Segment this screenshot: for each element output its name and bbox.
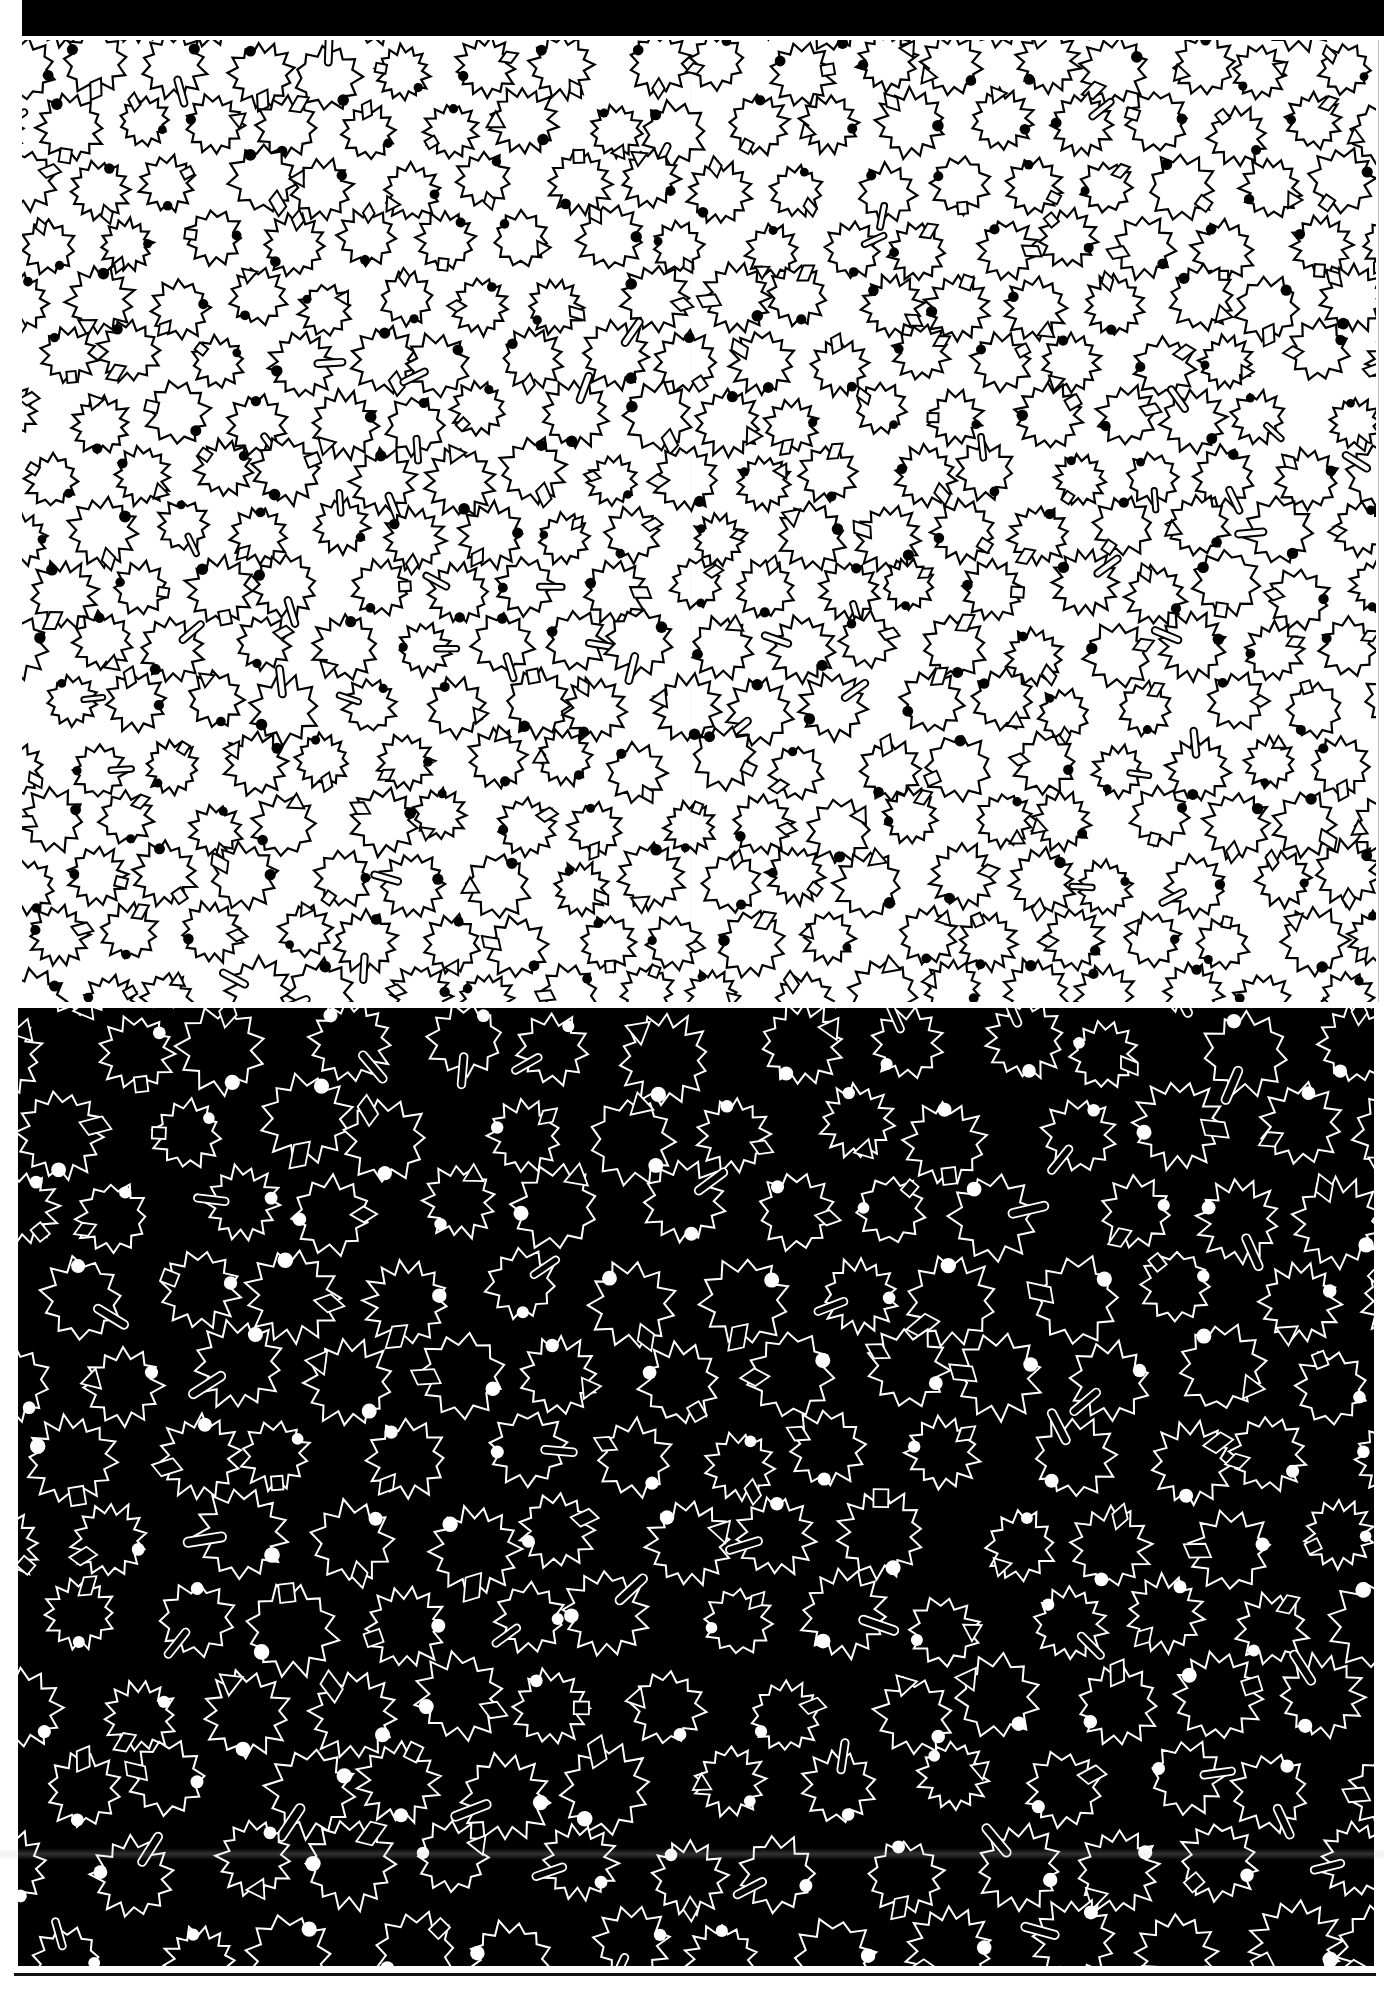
dot-icon xyxy=(1261,778,1270,787)
star-leaf-motif xyxy=(1255,1082,1341,1163)
star-leaf-motif xyxy=(22,968,67,1002)
dot-icon xyxy=(302,1922,317,1937)
star-leaf-motif xyxy=(144,381,211,444)
dot-icon xyxy=(1323,1284,1337,1298)
dot-icon xyxy=(529,960,540,971)
dot-icon xyxy=(423,757,433,767)
star-leaf-motif xyxy=(1316,839,1376,910)
dot-icon xyxy=(698,972,707,981)
dot-icon xyxy=(843,943,852,952)
star-leaf-motif xyxy=(1197,916,1249,969)
dot-icon xyxy=(574,770,584,780)
dot-icon xyxy=(491,1446,504,1459)
star-leaf-motif xyxy=(40,1008,120,1022)
dot-icon xyxy=(254,570,265,581)
star-leaf-motif xyxy=(399,623,460,677)
dot-icon xyxy=(72,766,81,775)
star-leaf-motif xyxy=(962,559,1024,620)
dot-icon xyxy=(681,843,690,852)
star-leaf-motif xyxy=(848,956,917,1002)
dot-icon xyxy=(191,1775,204,1788)
star-leaf-motif xyxy=(298,285,354,336)
dot-icon xyxy=(1063,765,1073,775)
star-leaf-motif xyxy=(1275,448,1337,511)
dot-icon xyxy=(536,440,547,451)
square-icon xyxy=(1300,680,1313,694)
dot-icon xyxy=(158,125,167,134)
star-leaf-motif xyxy=(922,960,980,1002)
star-leaf-motif xyxy=(189,668,244,726)
dot-icon xyxy=(1316,961,1328,973)
dot-icon xyxy=(654,237,663,246)
dot-icon xyxy=(38,535,47,544)
dot-icon xyxy=(158,1696,170,1708)
dot-icon xyxy=(98,268,110,280)
star-leaf-motif xyxy=(1041,1101,1116,1176)
star-leaf-motif xyxy=(456,40,521,98)
star-leaf-motif xyxy=(132,841,196,907)
dot-icon xyxy=(64,489,73,498)
star-leaf-motif xyxy=(97,320,160,384)
star-leaf-motif xyxy=(621,965,674,1002)
dot-icon xyxy=(419,398,429,408)
star-leaf-motif xyxy=(813,1258,897,1334)
star-leaf-motif xyxy=(487,1099,562,1172)
dot-icon xyxy=(1095,1572,1109,1586)
dot-icon xyxy=(453,344,464,355)
light-pattern-svg xyxy=(22,40,1376,1002)
dot-icon xyxy=(419,1699,434,1714)
square-icon xyxy=(278,1583,295,1603)
star-leaf-motif xyxy=(1034,1586,1108,1660)
dot-icon xyxy=(71,1813,84,1826)
star-leaf-motif xyxy=(607,742,668,806)
star-leaf-motif xyxy=(504,328,563,395)
star-leaf-motif xyxy=(143,40,208,107)
star-leaf-motif xyxy=(1125,92,1187,150)
dot-icon xyxy=(1318,594,1328,604)
star-leaf-motif xyxy=(618,843,685,914)
star-leaf-motif xyxy=(268,332,346,396)
dot-icon xyxy=(46,564,58,576)
star-leaf-motif xyxy=(930,499,993,564)
dot-icon xyxy=(760,607,770,617)
star-leaf-motif xyxy=(1092,745,1152,799)
dot-icon xyxy=(979,678,990,689)
bar-icon xyxy=(413,436,421,464)
star-leaf-motif xyxy=(1181,1825,1257,1902)
dot-icon xyxy=(203,1112,215,1124)
dot-icon xyxy=(1196,1329,1211,1344)
dot-icon xyxy=(560,199,571,210)
star-leaf-motif xyxy=(1273,793,1340,858)
dot-icon xyxy=(816,1634,831,1649)
dot-icon xyxy=(1012,1717,1026,1731)
dot-icon xyxy=(522,1535,535,1548)
star-leaf-motif xyxy=(456,152,510,211)
star-leaf-motif xyxy=(364,1587,446,1666)
star-leaf-motif xyxy=(1231,390,1285,444)
star-leaf-motif xyxy=(924,611,985,678)
star-leaf-motif xyxy=(583,317,649,390)
star-leaf-motif xyxy=(779,502,846,570)
square-icon xyxy=(574,1702,589,1715)
dot-icon xyxy=(586,804,595,813)
star-leaf-motif xyxy=(902,1102,987,1185)
dot-icon xyxy=(265,1192,278,1205)
star-leaf-motif xyxy=(1120,680,1170,736)
star-leaf-motif xyxy=(22,152,61,212)
star-leaf-motif xyxy=(151,279,211,339)
star-leaf-motif xyxy=(906,1257,994,1347)
dot-icon xyxy=(324,1008,338,1022)
star-leaf-motif xyxy=(101,901,157,959)
dot-icon xyxy=(697,524,706,533)
dot-icon xyxy=(1177,114,1188,125)
dot-icon xyxy=(736,900,746,910)
star-leaf-motif xyxy=(1163,963,1224,1002)
star-leaf-motif xyxy=(704,1587,772,1653)
star-leaf-motif xyxy=(1304,1500,1373,1569)
dot-icon xyxy=(399,643,408,652)
dot-icon xyxy=(1179,1489,1193,1503)
dot-icon xyxy=(311,736,320,745)
star-leaf-motif xyxy=(279,958,353,1002)
dot-icon xyxy=(51,98,63,110)
dot-icon xyxy=(540,531,549,540)
